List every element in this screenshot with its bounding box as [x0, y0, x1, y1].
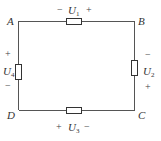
resistor-u1	[67, 19, 82, 25]
u2-label: U2	[143, 66, 154, 79]
u1-label: U1	[68, 5, 79, 18]
u3-subscript: 3	[76, 127, 80, 135]
u4-plus-sign: +	[5, 49, 11, 59]
node-label-b: B	[138, 16, 145, 27]
resistor-u4	[16, 65, 22, 80]
node-label-c: C	[138, 110, 145, 121]
u1-minus-sign: −	[57, 5, 63, 15]
u2-subscript: 2	[151, 71, 155, 79]
u3-plus-sign: +	[56, 122, 62, 132]
node-label-d: D	[7, 110, 15, 121]
u1-symbol: U	[68, 4, 76, 16]
u1-subscript: 1	[76, 10, 80, 18]
u3-symbol: U	[68, 121, 76, 133]
u2-plus-sign: +	[145, 82, 151, 92]
u2-minus-sign: −	[145, 50, 151, 60]
node-label-a: A	[7, 16, 14, 27]
u1-plus-sign: +	[86, 5, 92, 15]
resistor-u2	[132, 61, 138, 76]
u4-symbol: U	[3, 65, 11, 77]
u4-subscript: 4	[11, 71, 15, 79]
u2-symbol: U	[143, 65, 151, 77]
u4-label: U4	[3, 66, 14, 79]
u3-minus-sign: −	[84, 122, 90, 132]
u3-label: U3	[68, 122, 79, 135]
circuit-diagram	[0, 0, 161, 141]
resistor-u3	[67, 108, 82, 114]
u4-minus-sign: −	[5, 81, 11, 91]
